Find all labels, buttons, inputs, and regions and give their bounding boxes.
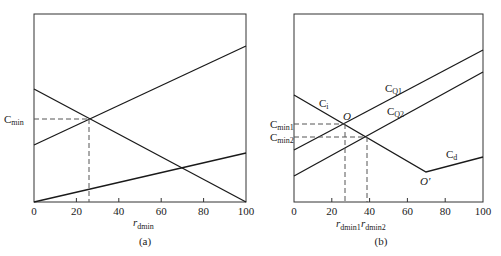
x-label-rdmin2: rdmin2: [361, 217, 386, 232]
tick-label: 60: [156, 205, 168, 217]
x-axis-label-a: rdmin: [133, 216, 154, 231]
tick-label: 20: [71, 205, 83, 217]
tick-label: 20: [326, 205, 338, 217]
tick-label: 80: [440, 205, 452, 217]
label-ci: Ci: [319, 97, 329, 111]
x-tick-labels-a: 0 20 40 60 80 100: [31, 205, 255, 217]
point-label-o-prime: O′: [420, 175, 431, 187]
tick-label: 40: [364, 205, 376, 217]
x-label-rdmin1: rdmin1: [336, 217, 361, 232]
plot-frame-a: [34, 14, 246, 202]
y-label-cmin1: Cmin1: [270, 118, 294, 132]
label-cq2: CQ2: [387, 105, 404, 119]
tick-label: 100: [475, 205, 492, 217]
tick-label: 0: [31, 205, 37, 217]
line-decreasing: [34, 89, 246, 202]
y-label-cmin2: Cmin2: [270, 131, 294, 145]
label-cq1: CQ1: [385, 82, 402, 96]
x-ticks-b: [332, 198, 445, 202]
tick-label: 0: [291, 205, 297, 217]
figure: 0 20 40 60 80 100 rdmin Cmin (a): [0, 0, 501, 256]
tick-label: 40: [113, 205, 125, 217]
x-ticks-a: [76, 198, 203, 202]
caption-b: (b): [375, 235, 388, 248]
point-label-o: O: [343, 110, 351, 122]
panel-a: 0 20 40 60 80 100 rdmin Cmin (a): [4, 14, 255, 248]
line-increasing-upper: [34, 46, 246, 145]
x-tick-labels-b: 0 20 40 60 80 100: [291, 205, 492, 217]
panel-b: 0 20 40 60 80 100 rdmin1 rdmin2 Cmin1 Cm…: [270, 14, 492, 248]
y-label-cmin: Cmin: [4, 113, 24, 127]
line-increasing-lower: [34, 153, 246, 202]
label-cd: Cd: [446, 148, 457, 162]
caption-a: (a): [139, 235, 152, 248]
tick-label: 100: [238, 205, 255, 217]
tick-label: 60: [402, 205, 414, 217]
tick-label: 80: [198, 205, 210, 217]
